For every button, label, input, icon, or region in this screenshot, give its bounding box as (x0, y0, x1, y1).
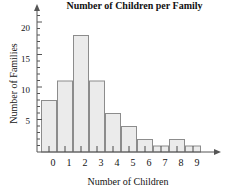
bars-group (42, 36, 201, 153)
bar-0 (42, 101, 57, 153)
plot-area (0, 0, 229, 193)
y-axis-arrow-icon (34, 4, 40, 11)
bar-1 (58, 81, 73, 152)
x-axis-arrow-icon (214, 149, 221, 155)
bar-3 (90, 81, 105, 152)
bar-2 (74, 36, 89, 153)
histogram-chart: Number of Children per Family Number of … (0, 0, 229, 193)
